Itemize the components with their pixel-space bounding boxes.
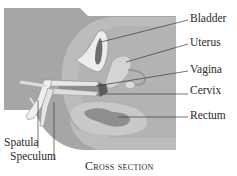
label-uterus: Uterus bbox=[190, 37, 221, 49]
label-spatula: Spatula bbox=[4, 137, 39, 149]
diagram-caption: Cross section bbox=[85, 159, 154, 174]
label-vagina: Vagina bbox=[190, 64, 222, 76]
label-speculum: Speculum bbox=[10, 151, 56, 163]
ovary-shape bbox=[125, 82, 135, 89]
label-rectum: Rectum bbox=[190, 110, 226, 122]
label-bladder: Bladder bbox=[190, 13, 226, 25]
label-cervix: Cervix bbox=[190, 85, 221, 97]
